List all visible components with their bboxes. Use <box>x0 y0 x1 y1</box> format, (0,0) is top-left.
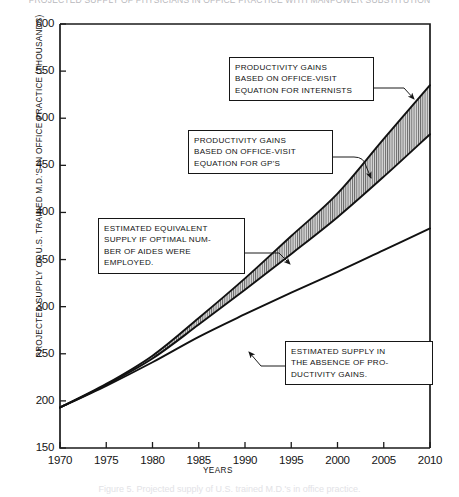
x-tick-label: 1985 <box>179 454 219 466</box>
callout-internists: PRODUCTIVITY GAINS BASED ON OFFICE-VISIT… <box>229 57 374 101</box>
callout-nogains-line2: THE ABSENCE OF PRO- <box>291 357 427 368</box>
callout-gps-line2: BASED ON OFFICE-VISIT <box>194 146 327 157</box>
callout-nogains: ESTIMATED SUPPLY IN THE ABSENCE OF PRO- … <box>285 341 433 385</box>
x-tick-label: 1995 <box>271 454 311 466</box>
x-tick-label: 2010 <box>410 454 450 466</box>
x-axis-ticks <box>60 442 430 448</box>
x-tick-label: 1990 <box>225 454 265 466</box>
x-tick-label: 1980 <box>133 454 173 466</box>
callout-aides-line1: ESTIMATED EQUIVALENT <box>104 223 239 234</box>
x-tick-label: 2000 <box>318 454 358 466</box>
callout-internists-line1: PRODUCTIVITY GAINS <box>235 62 368 73</box>
y-axis-ticks <box>60 24 66 448</box>
callout-internists-line2: BASED ON OFFICE-VISIT <box>235 73 368 84</box>
x-tick-label: 1970 <box>40 454 80 466</box>
callout-internists-line3: EQUATION FOR INTERNISTS <box>235 85 368 96</box>
x-tick-label: 2005 <box>364 454 404 466</box>
x-axis-title: YEARS <box>203 466 233 475</box>
callout-nogains-line1: ESTIMATED SUPPLY IN <box>291 346 427 357</box>
leader-internists <box>374 88 414 99</box>
y-tick-label: 200 <box>24 394 54 406</box>
x-tick-label: 1975 <box>86 454 126 466</box>
y-tick-label: 150 <box>24 441 54 453</box>
callout-aides-line2: SUPPLY IF OPTIMAL NUM- <box>104 234 239 245</box>
callout-aides-line4: EMPLOYED. <box>104 257 239 268</box>
callout-nogains-line3: DUCTIVITY GAINS. <box>291 369 427 380</box>
callout-gps: PRODUCTIVITY GAINS BASED ON OFFICE-VISIT… <box>188 130 333 174</box>
callout-gps-line1: PRODUCTIVITY GAINS <box>194 135 327 146</box>
leader-nogains <box>249 352 285 366</box>
callout-aides-line3: BER OF AIDES WERE <box>104 246 239 257</box>
y-axis-title: PROJECTED SUPPLY OF U.S. TRAINED M.D.'S … <box>35 108 44 358</box>
figure-container: PROJECTED SUPPLY OF PHYSICIANS IN OFFICE… <box>0 0 459 497</box>
callout-gps-line3: EQUATION FOR GP'S <box>194 158 327 169</box>
figure-bottom-caption: Figure 5. Projected supply of U.S. train… <box>0 484 459 496</box>
callout-aides: ESTIMATED EQUIVALENT SUPPLY IF OPTIMAL N… <box>98 218 245 274</box>
